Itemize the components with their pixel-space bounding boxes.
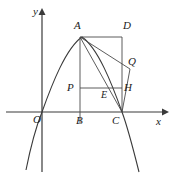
y-axis-label: y: [33, 6, 38, 17]
point-label-q: Q: [128, 56, 136, 67]
point-label-c: C: [112, 115, 119, 126]
point-label-e: E: [101, 90, 107, 100]
segment-ac: [80, 37, 122, 112]
point-label-p: P: [67, 82, 74, 93]
segment-aq: [80, 37, 130, 69]
point-label-h: H: [124, 82, 132, 93]
y-axis-arrow-icon: [39, 8, 46, 15]
point-label-d: D: [123, 20, 131, 31]
point-label-a: A: [74, 20, 81, 31]
point-label-b: B: [76, 115, 83, 126]
figure-canvas: [0, 0, 174, 176]
geometry-figure: [0, 0, 174, 176]
x-axis-label: x: [156, 116, 161, 127]
x-axis-arrow-icon: [162, 109, 169, 116]
point-label-o: O: [33, 114, 41, 125]
